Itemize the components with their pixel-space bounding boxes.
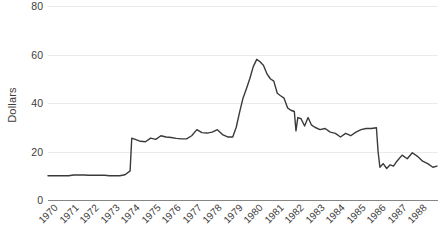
- y-tick-label-40: 40: [22, 97, 48, 109]
- y-tick-label-80: 80: [22, 0, 48, 12]
- x-axis-tick-labels: 1970197119721973197419751976197719781979…: [48, 202, 438, 248]
- series-line-dollars: [48, 6, 438, 200]
- y-tick-label-0: 0: [22, 194, 48, 206]
- y-axis-title: Dollars: [0, 0, 24, 210]
- y-axis-title-label: Dollars: [6, 87, 18, 123]
- y-tick-label-60: 60: [22, 49, 48, 61]
- y-tick-label-20: 20: [22, 146, 48, 158]
- plot-area: [48, 6, 438, 200]
- line-chart: Dollars 020406080 1970197119721973197419…: [0, 0, 444, 248]
